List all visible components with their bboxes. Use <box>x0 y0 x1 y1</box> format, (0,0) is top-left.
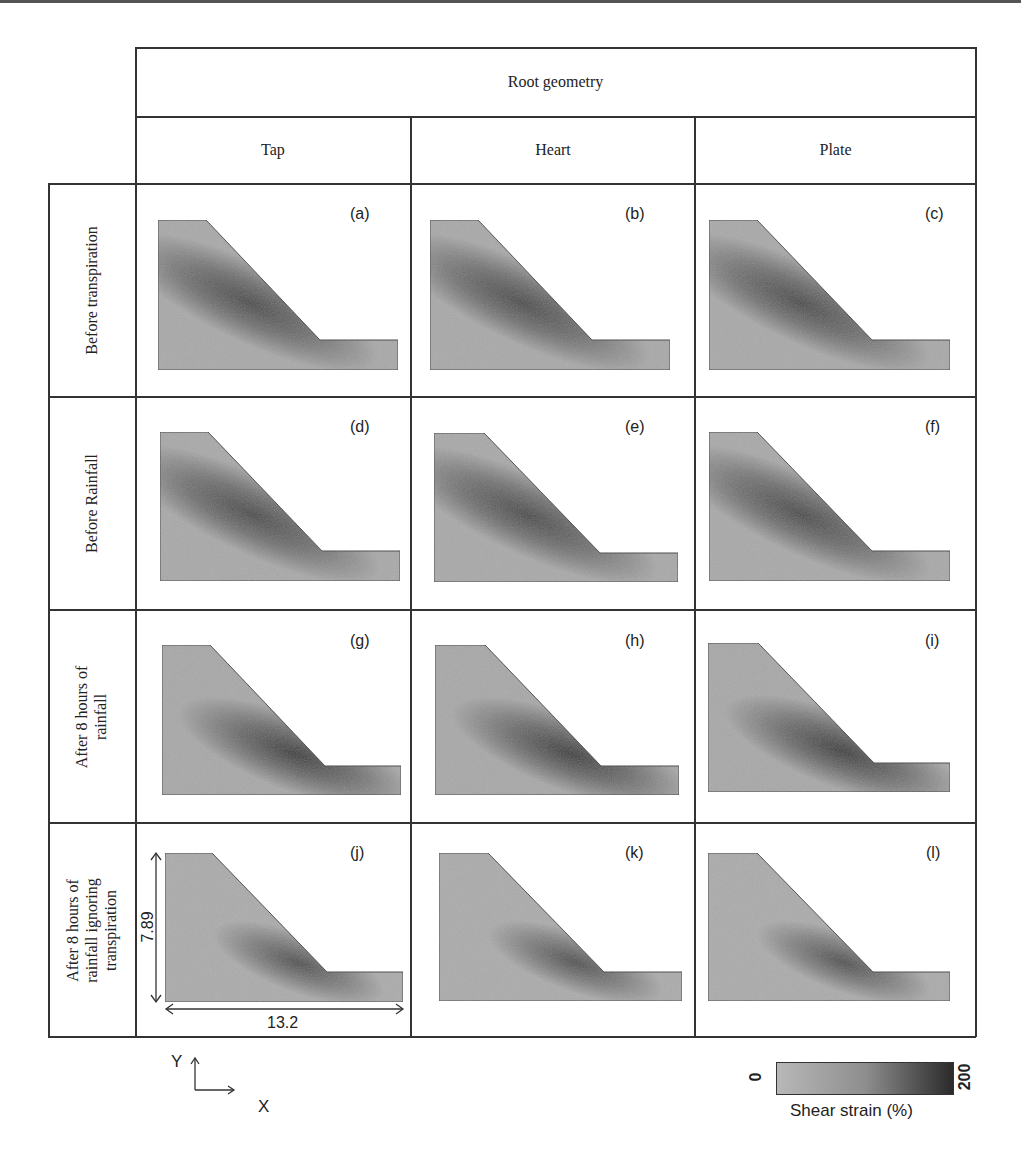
row-label-text: Before Rainfall <box>82 454 101 553</box>
row-label-after-8h-rainfall: After 8 hours of rainfall <box>48 610 135 823</box>
dimension-arrows <box>150 850 410 1030</box>
header-root-geometry: Root geometry <box>135 47 976 117</box>
panel-label: (l) <box>926 844 940 862</box>
panel-a <box>158 220 398 370</box>
panel-i <box>708 643 950 792</box>
panel-c <box>709 220 950 370</box>
colorbar <box>776 1062 954 1095</box>
slope-model-shape <box>435 645 679 795</box>
panel-label: (g) <box>350 632 370 650</box>
y-axis-label: Y <box>171 1052 182 1072</box>
height-dimension-label: 7.89 <box>139 911 157 942</box>
slope-model-shape <box>708 853 950 1001</box>
panel-h <box>435 645 679 795</box>
slope-model-shape <box>158 220 398 370</box>
colorbar-min-label: 0 <box>747 1073 765 1082</box>
table-divider <box>48 396 976 398</box>
panel-d <box>160 432 400 581</box>
panel-label: (d) <box>350 418 370 436</box>
row-label-text: After 8 hours of rainfall ignoring trans… <box>63 878 120 982</box>
colorbar-max-label: 200 <box>956 1064 974 1091</box>
table-divider <box>48 822 976 824</box>
width-dimension-label: 13.2 <box>267 1014 298 1032</box>
table-border-bottom <box>48 1036 976 1038</box>
row-label-before-rainfall: Before Rainfall <box>48 397 135 610</box>
slope-model-shape <box>162 645 401 795</box>
panel-b <box>430 220 670 370</box>
page-top-rule <box>0 0 1021 3</box>
row-label-after-8h-ignoring-transpiration: After 8 hours of rainfall ignoring trans… <box>48 823 135 1037</box>
slope-model-shape <box>439 853 682 1001</box>
panel-k <box>439 853 682 1001</box>
slope-model-shape <box>709 432 950 581</box>
column-header-plate: Plate <box>695 117 976 183</box>
table-divider <box>135 47 137 1037</box>
colorbar-title: Shear strain (%) <box>790 1101 913 1121</box>
column-header-heart: Heart <box>411 117 695 183</box>
panel-g <box>162 645 401 795</box>
table-border-right <box>975 47 977 1037</box>
panel-label: (a) <box>350 205 370 223</box>
panel-label: (k) <box>625 844 644 862</box>
slope-model-shape <box>709 220 950 370</box>
slope-model-shape <box>708 643 950 792</box>
table-divider <box>694 116 696 1037</box>
panel-f <box>709 432 950 581</box>
slope-model-shape <box>434 433 678 582</box>
slope-model-shape <box>160 432 400 581</box>
panel-label: (b) <box>625 205 645 223</box>
panel-e <box>434 433 678 582</box>
panel-label: (c) <box>925 205 944 223</box>
row-label-text: Before transpiration <box>82 226 101 354</box>
panel-l <box>708 853 950 1001</box>
panel-label: (h) <box>625 632 645 650</box>
row-label-before-transpiration: Before transpiration <box>48 184 135 397</box>
table-divider <box>410 116 412 1037</box>
row-label-text: After 8 hours of rainfall <box>73 665 111 768</box>
x-axis-label: X <box>258 1097 269 1117</box>
slope-model-shape <box>430 220 670 370</box>
column-header-tap: Tap <box>135 117 411 183</box>
panel-label: (e) <box>625 418 645 436</box>
panel-label: (i) <box>925 632 939 650</box>
table-divider <box>48 183 976 185</box>
table-divider <box>48 609 976 611</box>
panel-label: (f) <box>925 418 940 436</box>
